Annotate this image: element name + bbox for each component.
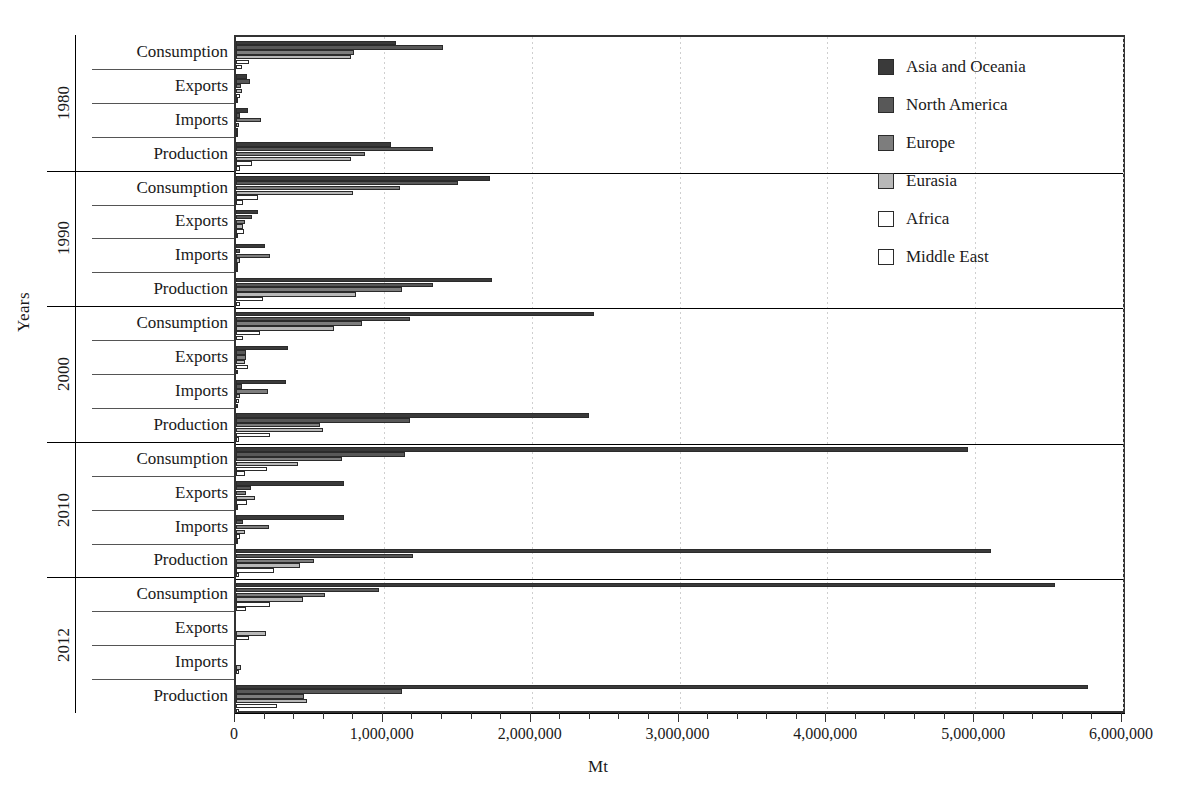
bar-1990-consumption-middle-east (236, 200, 243, 204)
bar-1990-production-eurasia (236, 292, 356, 296)
bar-2010-imports-eurasia (236, 530, 245, 534)
legend-item-north-america[interactable]: North America (878, 86, 1178, 124)
category-label-imports: Imports (175, 653, 228, 670)
category-label-consumption: Consumption (136, 450, 228, 467)
legend-item-africa[interactable]: Africa (878, 200, 1178, 238)
bar-2000-consumption-middle-east (236, 336, 243, 340)
category-label-production: Production (153, 551, 228, 568)
x-tick-minor (914, 713, 915, 719)
bar-1980-consumption-eurasia (236, 55, 351, 59)
bar-2012-exports-africa (236, 636, 249, 640)
group-separator (236, 308, 1123, 309)
bar-1980-production-north-america (236, 147, 433, 151)
bar-1980-exports-asia-and-oceania (236, 74, 247, 78)
x-tick-major (825, 713, 826, 722)
bar-1990-exports-north-america (236, 215, 252, 219)
x-tick-label: 5,000,000 (941, 725, 1005, 743)
bar-1990-production-middle-east (236, 302, 240, 306)
category-separator (92, 205, 234, 206)
category-separator (92, 510, 234, 511)
bar-2010-consumption-north-america (236, 452, 405, 456)
legend-label: North America (906, 95, 1008, 115)
category-label-exports: Exports (175, 77, 228, 94)
x-tick-minor (352, 713, 353, 719)
x-tick-major (382, 713, 383, 722)
x-tick-minor (471, 713, 472, 719)
bar-1990-production-north-america (236, 283, 433, 287)
bar-2000-production-middle-east (236, 437, 239, 441)
bar-2012-consumption-eurasia (236, 597, 303, 601)
x-tick-major (973, 713, 974, 722)
category-separator (92, 238, 234, 239)
bar-2000-imports-europe (236, 389, 268, 393)
bar-1990-consumption-africa (236, 195, 258, 199)
x-tick-label: 0 (230, 725, 238, 743)
legend-item-middle-east[interactable]: Middle East (878, 238, 1178, 276)
bar-1990-imports-africa (236, 263, 238, 267)
bar-2000-imports-north-america (236, 384, 242, 388)
legend-item-eurasia[interactable]: Eurasia (878, 162, 1178, 200)
bar-2000-exports-middle-east (236, 370, 238, 374)
x-tick-minor (441, 713, 442, 719)
category-separator (92, 69, 234, 70)
legend-item-europe[interactable]: Europe (878, 124, 1178, 162)
x-tick-minor (648, 713, 649, 719)
bar-1980-production-asia-and-oceania (236, 142, 391, 146)
bar-2012-imports-eurasia (236, 665, 241, 669)
bar-1990-exports-middle-east (236, 234, 238, 238)
x-tick-minor (589, 713, 590, 719)
category-label-imports: Imports (175, 111, 228, 128)
bar-2010-consumption-africa (236, 467, 267, 471)
bar-2000-production-africa (236, 433, 270, 437)
legend-swatch-icon (878, 211, 894, 227)
bar-1990-production-asia-and-oceania (236, 278, 492, 282)
bar-1980-production-africa (236, 161, 252, 165)
x-tick-label: 3,000,000 (646, 725, 710, 743)
legend-item-asia-and-oceania[interactable]: Asia and Oceania (878, 48, 1178, 86)
bar-1990-imports-middle-east (236, 268, 238, 272)
gridline (827, 37, 828, 711)
bar-2000-exports-europe (236, 355, 246, 359)
category-separator (92, 137, 234, 138)
bar-2000-production-north-america (236, 418, 410, 422)
bar-1980-exports-africa (236, 94, 240, 98)
x-tick-label: 1,000,000 (350, 725, 414, 743)
category-separator (92, 408, 234, 409)
group-separator (236, 444, 1123, 445)
group-separator-label (47, 577, 234, 578)
bar-2012-production-europe (236, 694, 304, 698)
category-separator (92, 544, 234, 545)
bar-2000-consumption-north-america (236, 317, 410, 321)
bar-1980-exports-north-america (236, 79, 250, 83)
group-separator-label (47, 171, 234, 172)
bar-2000-exports-africa (236, 365, 248, 369)
bar-2010-exports-north-america (236, 486, 251, 490)
bar-2000-imports-middle-east (236, 404, 238, 408)
x-tick-major (530, 713, 531, 722)
category-label-consumption: Consumption (136, 314, 228, 331)
group-separator-label (47, 442, 234, 443)
bar-2000-exports-north-america (236, 350, 246, 354)
x-axis-line (234, 713, 1125, 714)
bar-2012-consumption-middle-east (236, 607, 246, 611)
category-label-imports: Imports (175, 382, 228, 399)
legend-swatch-icon (878, 249, 894, 265)
bar-2012-consumption-africa (236, 602, 270, 606)
bar-1980-production-europe (236, 152, 365, 156)
bar-2012-exports-eurasia (236, 631, 266, 635)
category-label-consumption: Consumption (136, 43, 228, 60)
gridline (384, 37, 385, 711)
bar-2010-exports-asia-and-oceania (236, 481, 344, 485)
category-label-exports: Exports (175, 212, 228, 229)
bar-2010-imports-middle-east (236, 539, 238, 543)
y-axis-title: Years (14, 212, 34, 332)
bar-1980-production-eurasia (236, 157, 351, 161)
group-separator-label (47, 306, 234, 307)
bar-2012-production-eurasia (236, 699, 307, 703)
x-tick-minor (323, 713, 324, 719)
bar-2010-imports-north-america (236, 520, 243, 524)
bar-2000-exports-eurasia (236, 360, 245, 364)
x-tick-major (234, 713, 235, 722)
x-tick-minor (944, 713, 945, 719)
bar-2000-consumption-eurasia (236, 326, 334, 330)
